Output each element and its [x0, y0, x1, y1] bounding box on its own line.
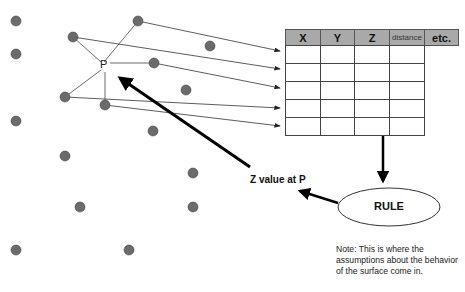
table-cell: [389, 81, 425, 100]
data-points: [11, 16, 215, 255]
table-cell: [285, 81, 321, 100]
table-cell: [354, 117, 390, 136]
table-cell: [389, 45, 425, 64]
table-cell: [285, 99, 321, 118]
table-cell: [320, 117, 355, 136]
rule-label: RULE: [374, 200, 404, 212]
table-cell: [285, 63, 321, 82]
header-x: X: [285, 29, 321, 46]
rule-to-z-arrow: [300, 191, 338, 203]
row-arrows: [65, 21, 280, 126]
table-cell: [320, 45, 355, 64]
header-etc: etc.: [424, 29, 459, 46]
table-cell: [354, 45, 390, 64]
table-cell: [320, 63, 355, 82]
table-cell: [354, 63, 390, 82]
table-cell: [354, 99, 390, 118]
table-cell: [320, 81, 355, 100]
table-cell: [389, 99, 425, 118]
table-cell: [389, 117, 425, 136]
header-distance: distance: [389, 29, 425, 46]
header-y: Y: [320, 29, 355, 46]
table-cell: [354, 81, 390, 100]
table-cell: [285, 117, 321, 136]
header-z: Z: [354, 29, 390, 46]
table-cell: [320, 99, 355, 118]
note-text: Note: This is where the assumptions abou…: [336, 244, 461, 277]
table-cell: [389, 63, 425, 82]
point-p-label: P: [100, 58, 107, 70]
table-cell: [285, 45, 321, 64]
z-value-label: Z value at P: [250, 174, 306, 185]
